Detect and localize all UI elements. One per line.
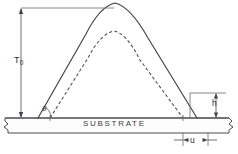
label-foot-height: h (212, 99, 217, 108)
h-arrowhead-bottom (214, 113, 218, 119)
dashed-profile-curve (50, 31, 183, 118)
T0-arrowhead-bottom (19, 112, 23, 118)
label-total-thickness-subscript: 0 (20, 59, 24, 66)
dimension-T0 (19, 8, 114, 118)
T0-arrowhead-top (19, 8, 23, 14)
profile-diagram-figure: T0 θ h u SUBSTRATE (0, 0, 238, 154)
u-arrowhead-left (183, 138, 189, 142)
label-sidewall-angle: θ (42, 105, 46, 113)
solid-profile-curve (38, 3, 197, 118)
dimension-u (174, 133, 217, 146)
label-substrate: SUBSTRATE (83, 120, 146, 128)
label-foot-width: u (190, 136, 195, 145)
dimension-h (190, 93, 226, 118)
diagram-canvas (0, 0, 238, 154)
u-arrowhead-right (203, 138, 209, 142)
label-total-thickness: T0 (14, 56, 23, 67)
